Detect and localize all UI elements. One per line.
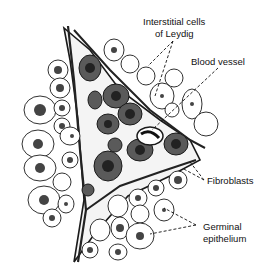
label-germinal-line2: epithelium	[203, 233, 246, 244]
leader-germinal-2	[150, 225, 196, 234]
histology-diagram: Interstitial cells of Leydig Blood vesse…	[0, 0, 274, 280]
leader-leydig-1	[148, 41, 173, 66]
blood-vessel	[137, 127, 163, 145]
label-leydig-line1: Interstitial cells	[143, 16, 206, 27]
label-blood-vessel: Blood vessel	[191, 56, 245, 67]
label-fibroblasts: Fibroblasts	[207, 175, 254, 186]
label-germinal-line1: Germinal	[203, 221, 242, 232]
label-leydig-line2: of Leydig	[155, 28, 194, 39]
